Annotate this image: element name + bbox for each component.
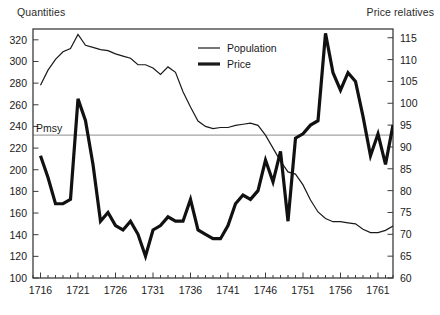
y-tick-label-left: 220 [9, 142, 27, 154]
y-tick-label-left: 200 [9, 164, 27, 176]
y-tick-label-left: 120 [9, 250, 27, 262]
x-tick-label: 1736 [179, 284, 203, 296]
y-tick-label-left: 180 [9, 185, 27, 197]
y-tick-label-right: 110 [400, 54, 417, 66]
y-tick-label-right: 115 [400, 32, 417, 44]
x-tick-label: 1756 [329, 284, 353, 296]
x-tick-label: 1751 [291, 284, 315, 296]
data-series-lines [41, 33, 394, 256]
x-tick-label: 1716 [29, 284, 53, 296]
line-chart-plot: 1716172117261731173617411746175117561761… [0, 0, 440, 315]
y-tick-label-left: 260 [9, 99, 27, 111]
pmsy-label: Pmsy [36, 122, 63, 134]
y-tick-label-left: 100 [9, 272, 27, 284]
x-axis-tick-labels: 1716172117261731173617411746175117561761 [29, 284, 390, 296]
y-axis-left-tick-labels: 100120140160180200220240260280300320 [9, 34, 27, 284]
x-tick-label: 1731 [141, 284, 165, 296]
y-tick-label-right: 90 [400, 141, 412, 153]
y-tick-label-left: 300 [9, 55, 27, 67]
y-tick-label-right: 95 [400, 119, 412, 131]
series-line-price [41, 33, 394, 256]
y-tick-label-left: 240 [9, 120, 27, 132]
y-tick-label-left: 160 [9, 207, 27, 219]
y-axis-right-tick-labels: 6065707580859095100105110115 [400, 32, 418, 284]
y-tick-label-right: 75 [400, 206, 412, 218]
y-tick-label-left: 320 [9, 34, 27, 46]
y-tick-label-right: 105 [400, 75, 418, 87]
y-tick-label-right: 100 [400, 97, 418, 109]
pmsy-annotation-label: Pmsy [36, 122, 63, 134]
chart-legend: PopulationPrice [198, 42, 277, 70]
x-tick-label: 1741 [216, 284, 240, 296]
x-tick-label: 1726 [104, 284, 128, 296]
x-axis-ticks [33, 273, 393, 279]
y-tick-label-right: 60 [400, 272, 412, 284]
x-tick-label: 1746 [254, 284, 278, 296]
legend-label-population: Population [227, 42, 277, 54]
plot-frame [33, 29, 393, 278]
legend-label-price: Price [227, 58, 251, 70]
x-tick-label: 1761 [366, 284, 390, 296]
y-tick-label-left: 140 [9, 229, 27, 241]
y-tick-label-right: 65 [400, 250, 412, 262]
x-tick-label: 1721 [66, 284, 90, 296]
y-tick-label-right: 70 [400, 228, 412, 240]
y-tick-label-left: 280 [9, 77, 27, 89]
y-tick-label-right: 85 [400, 163, 412, 175]
chart-figure: Quantities Price relatives 1716172117261… [0, 0, 440, 315]
y-tick-label-right: 80 [400, 185, 412, 197]
y-axis-left-ticks [33, 40, 39, 278]
